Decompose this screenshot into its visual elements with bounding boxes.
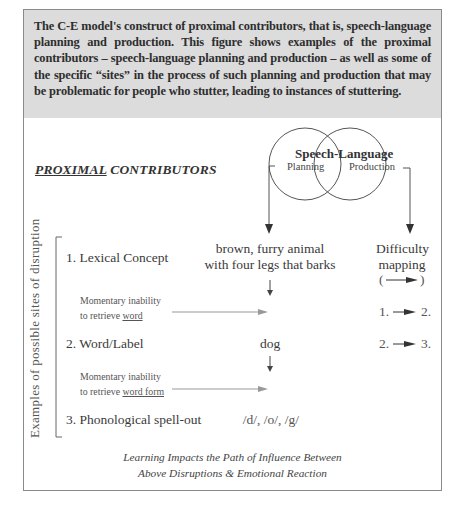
disruption-line: Momentary inability <box>80 293 161 308</box>
difficulty-mapping-heading: Difficulty mapping <box>376 241 428 273</box>
row-example-lexical-concept: brown, furry animal with four legs that … <box>200 241 340 273</box>
footer-line: Learning Impacts the Path of Influence B… <box>23 449 442 465</box>
disruption-arrow-icon <box>172 386 268 392</box>
mapping-from: 1. <box>379 304 389 320</box>
production-arrow-icon <box>403 168 414 234</box>
row-example-phonological: /d/, /o/, /g/ <box>226 412 316 428</box>
disruption-note: Momentary inability to retrieve word <box>80 293 161 323</box>
down-arrow-icon <box>267 280 273 296</box>
example-line: with four legs that barks <box>200 257 340 273</box>
venn-right-label: Production <box>349 161 395 172</box>
mapping-arrow-icon <box>393 309 416 315</box>
venn-title: Speech-Language <box>295 146 393 162</box>
legend-arrow-icon <box>386 277 418 283</box>
mapping-to: 2. <box>421 304 431 320</box>
section-title: PROXIMAL CONTRIBUTORS <box>35 162 217 178</box>
disruption-prefix: to retrieve <box>80 386 122 397</box>
legend-open-paren: ( <box>379 272 384 288</box>
row-example-word-label: dog <box>240 336 300 352</box>
title-emphasis: PROXIMAL <box>35 162 107 177</box>
disruption-note: Momentary inability to retrieve word for… <box>80 369 164 399</box>
row-label-word-label: 2. Word/Label <box>66 336 143 352</box>
row-label-lexical-concept: 1. Lexical Concept <box>66 250 168 266</box>
down-arrow-icon <box>267 356 273 372</box>
vertical-axis-label: Examples of possible sites of disruption <box>27 218 43 438</box>
disruption-target: word form <box>122 386 164 397</box>
disruption-arrow-icon <box>172 309 268 315</box>
disruption-prefix: to retrieve <box>80 310 122 321</box>
legend-close-paren: ) <box>420 272 425 288</box>
heading-line: mapping <box>376 257 428 273</box>
example-line: brown, furry animal <box>200 241 340 257</box>
bracket <box>56 237 62 437</box>
mapping-arrow-icon <box>393 341 416 347</box>
heading-line: Difficulty <box>376 241 428 257</box>
disruption-target: word <box>122 310 142 321</box>
venn-left-label: Planning <box>287 161 324 172</box>
title-rest: CONTRIBUTORS <box>107 162 217 177</box>
diagram-footer: Learning Impacts the Path of Influence B… <box>23 449 442 481</box>
row-label-phonological-spell-out: 3. Phonological spell-out <box>66 412 201 428</box>
footer-line: Above Disruptions & Emotional Reaction <box>23 465 442 481</box>
planning-arrow-icon <box>265 166 275 234</box>
mapping-to: 3. <box>421 336 431 352</box>
disruption-line: Momentary inability <box>80 369 164 384</box>
mapping-from: 2. <box>379 336 389 352</box>
